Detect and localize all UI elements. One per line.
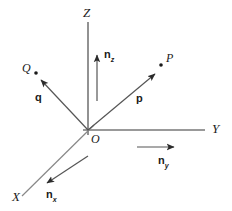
normal-ny-subscript: y [165, 162, 169, 169]
point-p-label: P [166, 52, 173, 64]
normal-nx-base: n [46, 188, 53, 200]
vector-diagram-figure: Z Y X O P Q p q nz ny nx [0, 0, 232, 211]
diagram-canvas [0, 0, 232, 211]
point-p-dot [159, 63, 163, 67]
x-axis-label: X [12, 190, 20, 203]
y-axis-label: Y [212, 122, 219, 135]
normal-nx-label: nx [46, 189, 57, 202]
normal-ny-label: ny [158, 155, 169, 168]
point-q-label: Q [22, 62, 31, 74]
x-axis-line [22, 125, 94, 196]
normal-ny-base: n [158, 154, 165, 166]
normal-nz-label: nz [104, 49, 114, 62]
normal-nx-subscript: x [53, 196, 57, 203]
vector-p-arrow [88, 74, 155, 130]
normal-nx-arrow [47, 156, 88, 183]
point-q-dot [34, 71, 38, 75]
vector-p-label: p [136, 93, 143, 104]
normal-nz-base: n [104, 48, 111, 60]
vector-q-arrow [41, 80, 88, 130]
z-axis-label: Z [83, 6, 90, 19]
origin-label: O [91, 133, 100, 145]
normal-nz-subscript: z [111, 56, 115, 63]
vector-q-label: q [35, 92, 42, 103]
